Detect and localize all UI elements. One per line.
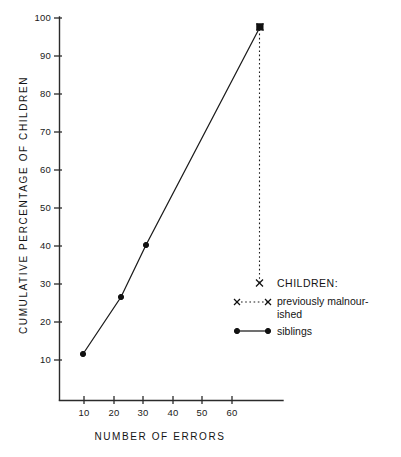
series-line-siblings [83, 27, 260, 354]
y-tick-label: 70 [40, 126, 51, 137]
x-tick-label: 40 [168, 407, 179, 418]
legend-label-line1: previously malnour- [277, 295, 369, 307]
y-tick-label: 60 [40, 164, 51, 175]
legend-label-line2: ished [277, 308, 302, 320]
x-tick-label: 20 [109, 407, 120, 418]
y-tick-label: 40 [40, 240, 51, 251]
legend-marker-dot-solid-icon [234, 328, 270, 333]
legend-item-siblings: siblings [234, 325, 312, 337]
legend-item-previously-malnourished: previously malnour- ished [234, 295, 369, 320]
chart-legend: CHILDREN: previously malnour- ished [234, 277, 369, 337]
y-tick-label: 10 [40, 354, 51, 365]
x-marker-lower [256, 280, 263, 287]
y-tick-label: 30 [40, 278, 51, 289]
data-point [80, 351, 85, 356]
y-axis-title: CUMULATIVE PERCENTAGE OF CHILDREN [18, 76, 29, 334]
cumulative-percentage-line-chart: 100 90 80 70 60 50 40 30 20 10 10 20 30 … [0, 0, 401, 457]
x-tick-label: 50 [197, 407, 208, 418]
y-axis-ticks [54, 18, 62, 360]
y-tick-label: 20 [40, 316, 51, 327]
data-point [143, 242, 148, 247]
y-tick-label: 80 [40, 88, 51, 99]
legend-label-line1: siblings [277, 325, 312, 337]
y-tick-label: 100 [35, 12, 51, 23]
x-axis-title: NUMBER OF ERRORS [94, 431, 225, 442]
y-tick-label: 50 [40, 202, 51, 213]
x-tick-label: 10 [79, 407, 90, 418]
y-tick-label: 90 [40, 50, 51, 61]
legend-marker-x-dotted-icon [234, 299, 271, 305]
legend-heading: CHILDREN: [277, 277, 338, 289]
data-point [118, 294, 123, 299]
x-axis-tick-labels: 10 20 30 40 50 60 [79, 407, 238, 418]
x-tick-label: 60 [227, 407, 238, 418]
x-tick-label: 30 [138, 407, 149, 418]
y-axis-tick-labels: 100 90 80 70 60 50 40 30 20 10 [35, 12, 51, 365]
series-markers-previously-malnourished [256, 24, 264, 287]
chart-figure: 100 90 80 70 60 50 40 30 20 10 10 20 30 … [0, 0, 401, 457]
